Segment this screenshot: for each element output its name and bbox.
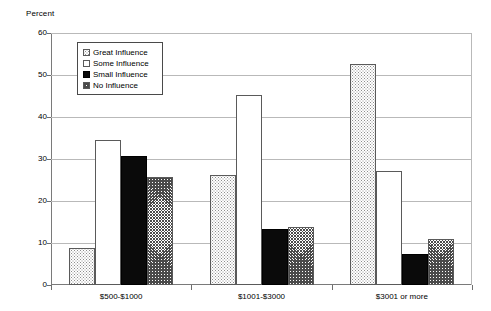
y-tick-label-40: 40 — [5, 113, 47, 121]
bar-no-influence-group-2 — [288, 227, 314, 285]
legend-swatch-some-influence — [83, 60, 90, 67]
y-tick-10: 10 — [0, 239, 47, 247]
y-tick-60: 60 — [0, 29, 47, 37]
y-tick-30: 30 — [0, 155, 47, 163]
bar-small-influence-group-2 — [262, 229, 288, 285]
y-tick-label-20: 20 — [5, 197, 47, 205]
bar-small-influence-group-3 — [402, 254, 428, 286]
y-tick-mark-10 — [47, 243, 51, 244]
legend-label-small-influence: Small Influence — [93, 70, 148, 79]
bar-great-influence-group-3 — [350, 64, 376, 285]
x-tick-mark-1 — [191, 285, 192, 290]
legend-item-small-influence: Small Influence — [83, 69, 162, 80]
x-category-label-3: $3001 or more — [332, 292, 472, 302]
y-tick-mark-30 — [47, 159, 51, 160]
x-tick-mark-2 — [332, 285, 333, 290]
legend-swatch-small-influence — [83, 71, 90, 78]
y-tick-20: 20 — [0, 197, 47, 205]
y-tick-40: 40 — [0, 113, 47, 121]
y-tick-label-30: 30 — [5, 155, 47, 163]
bar-some-influence-group-2 — [236, 95, 262, 285]
y-tick-mark-20 — [47, 201, 51, 202]
bar-no-influence-group-3 — [428, 239, 454, 285]
y-tick-label-60: 60 — [5, 29, 47, 37]
bar-some-influence-group-3 — [376, 171, 402, 285]
y-tick-label-10: 10 — [5, 239, 47, 247]
y-tick-mark-60 — [47, 33, 51, 34]
legend-label-no-influence: No Influence — [93, 81, 138, 90]
bar-small-influence-group-1 — [121, 156, 147, 285]
chart-legend: Great Influence Some Influence Small Inf… — [77, 42, 163, 95]
y-tick-label-50: 50 — [5, 71, 47, 79]
gridline-60 — [51, 33, 472, 34]
bar-great-influence-group-1 — [69, 248, 95, 285]
x-tick-mark-0 — [51, 285, 52, 290]
gridline-40 — [51, 117, 472, 118]
legend-swatch-great-influence — [83, 49, 90, 56]
legend-label-some-influence: Some Influence — [93, 59, 149, 68]
x-category-label-1: $500-$1000 — [51, 292, 191, 302]
legend-item-some-influence: Some Influence — [83, 58, 162, 69]
x-tick-mark-3 — [472, 285, 473, 290]
y-axis-title: Percent — [26, 9, 54, 19]
y-tick-mark-40 — [47, 117, 51, 118]
bar-chart: Percent 0102030405060 $500-$1000$1001-$3… — [0, 0, 491, 311]
legend-item-great-influence: Great Influence — [83, 47, 162, 58]
y-tick-label-0: 0 — [5, 281, 47, 289]
y-tick-0: 0 — [0, 281, 47, 289]
y-tick-mark-50 — [47, 75, 51, 76]
bar-no-influence-group-1 — [147, 177, 173, 285]
legend-label-great-influence: Great Influence — [93, 48, 148, 57]
x-category-label-2: $1001-$3000 — [191, 292, 331, 302]
bar-great-influence-group-2 — [210, 175, 236, 285]
bar-some-influence-group-1 — [95, 140, 121, 285]
legend-swatch-no-influence — [83, 82, 90, 89]
y-tick-50: 50 — [0, 71, 47, 79]
legend-item-no-influence: No Influence — [83, 80, 162, 91]
